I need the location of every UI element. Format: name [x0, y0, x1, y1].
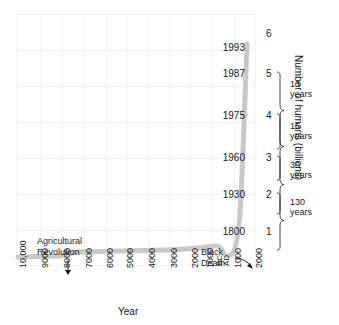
year-callout-1987: 1987: [203, 68, 245, 79]
year-callout-1975: 1975: [203, 110, 245, 121]
x-axis-tick-1000-bc: 1000: [205, 248, 215, 268]
x-axis-title: Year: [118, 306, 138, 317]
year-callout-1930: 1930: [203, 189, 245, 200]
agricultural-revolution-line1: Agricultural: [37, 236, 82, 247]
y-axis-tick-5: 5: [266, 68, 272, 79]
interval-braces: [276, 14, 290, 266]
x-axis-tick-6000: 6000: [105, 248, 115, 268]
x-axis-tick-3000: 3000: [169, 248, 179, 268]
y-axis-tick-1: 1: [266, 226, 272, 237]
x-axis-tick-2000-bc: 2000: [190, 248, 200, 268]
year-callout-1960: 1960: [203, 152, 245, 163]
x-axis-tick-4000: 4000: [147, 248, 157, 268]
y-axis-tick-3: 3: [266, 152, 272, 163]
x-axis-tick-7000: 7000: [84, 248, 94, 268]
year-callout-1993: 1993: [203, 42, 245, 53]
x-axis-tick-2000-ad: 2000: [254, 248, 264, 268]
x-axis-tick-9000: 9000: [40, 248, 50, 268]
population-growth-chart: Agricultural Revolution Black Death 1993…: [0, 0, 339, 325]
x-axis-tick-10000: 10,000: [18, 240, 28, 268]
y-axis-tick-6: 6: [266, 28, 272, 39]
y-axis-tick-4: 4: [266, 110, 272, 121]
x-axis-tick-1000-ad: 1000: [233, 248, 243, 268]
x-axis-tick-5000: 5000: [125, 248, 135, 268]
x-axis-tick-8000: 8000: [62, 248, 72, 268]
y-axis-tick-2: 2: [266, 189, 272, 200]
y-axis-title: Number of humans (billions): [293, 55, 304, 225]
year-callout-1800: 1800: [203, 226, 245, 237]
x-axis-era-ad: AD: [222, 255, 231, 266]
